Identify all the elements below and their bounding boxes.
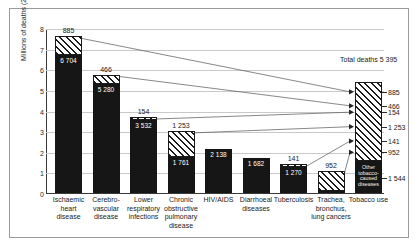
bar-segment-other-diarrhoeal[interactable]: 1 682 <box>243 158 270 193</box>
bar-ischaemic[interactable]: 6 704885Ischaemicheartdisease <box>55 36 82 193</box>
value-label-lower-respiratory-tobacco: 154 <box>122 108 165 115</box>
x-axis-label-line: bronchus, <box>308 205 355 214</box>
gridline-7 <box>46 50 384 51</box>
value-label-trachea-tobacco: 952 <box>310 162 353 169</box>
bar-segment-tobacco-tobacco-use[interactable] <box>355 82 382 161</box>
y-tick-label-4: 4 <box>14 109 44 116</box>
breakdown-tick-0 <box>382 92 387 93</box>
bar-segment-other-hiv-aids[interactable]: 2 138 <box>205 149 232 193</box>
value-label-lower-respiratory-other: 3 532 <box>131 123 156 130</box>
y-tick-label-8: 8 <box>14 26 44 33</box>
value-label-cerebrovascular-other: 5 280 <box>94 87 119 94</box>
bar-hiv-aids[interactable]: 2 138HIV/AIDS <box>205 149 232 193</box>
y-tick-label-7: 7 <box>14 47 44 54</box>
y-tick-label-0: 0 <box>14 191 44 198</box>
breakdown-tick-5 <box>382 152 387 153</box>
breakdown-tick-3 <box>382 127 387 128</box>
breakdown-tick-6 <box>382 178 387 179</box>
gridline-8 <box>46 29 384 30</box>
y-tick-label-6: 6 <box>14 67 44 74</box>
bar-tuberculosis[interactable]: 1 270141Tuberculosis <box>280 164 307 193</box>
bar-segment-other-copd[interactable]: 1 761 <box>168 157 195 193</box>
y-tick-label-5: 5 <box>14 88 44 95</box>
chart-frame: Millions of deaths (2005) 876543210 6 70… <box>9 8 409 238</box>
bar-segment-other-trachea[interactable]: 118 <box>318 191 345 193</box>
bar-tobacco-use[interactable]: Other tobacco-caused diseasesTobacco use <box>355 82 382 193</box>
bar-segment-tobacco-cerebrovascular[interactable] <box>93 75 120 85</box>
value-label-tuberculosis-tobacco: 141 <box>272 155 315 162</box>
x-axis-label-line: pulmonary <box>158 213 205 222</box>
x-axis-label-line: lung cancers <box>308 213 355 222</box>
bar-cerebrovascular[interactable]: 5 280466Cerebro-vasculardisease <box>93 75 120 194</box>
breakdown-tick-4 <box>382 141 387 142</box>
y-tick-label-3: 3 <box>14 129 44 136</box>
value-label-cerebrovascular-tobacco: 466 <box>85 66 128 73</box>
bar-diarrhoeal[interactable]: 1 682Diarrhoealdiseases <box>243 158 270 193</box>
x-axis-label-line: Tobacco use <box>345 196 392 205</box>
y-tick-label-1: 1 <box>14 170 44 177</box>
bar-segment-other-lower-respiratory[interactable]: 3 532 <box>130 120 157 193</box>
other-tobacco-caused-label: Other tobacco-caused diseases <box>357 165 380 187</box>
x-axis-label-line: obstructive <box>158 205 205 214</box>
value-label-copd-other: 1 761 <box>169 160 194 167</box>
bar-segment-tobacco-copd[interactable] <box>168 131 195 157</box>
breakdown-label-3: 1 253 <box>388 124 406 131</box>
bar-segment-other-tuberculosis[interactable]: 1 270 <box>280 167 307 193</box>
total-deaths-note: Total deaths 5 395 <box>340 56 397 63</box>
value-label-hiv-aids-other: 2 138 <box>206 152 231 159</box>
bar-segment-other-tobacco-use[interactable]: Other tobacco-caused diseases <box>355 161 382 193</box>
y-tick-label-2: 2 <box>14 150 44 157</box>
x-axis-label-tobacco-use: Tobacco use <box>345 196 392 205</box>
value-label-ischaemic-other: 6 704 <box>56 58 81 65</box>
plot-area: 876543210 6 704885Ischaemicheartdisease5… <box>46 29 384 194</box>
breakdown-tick-1 <box>382 106 387 107</box>
bar-segment-other-cerebrovascular[interactable]: 5 280 <box>93 84 120 193</box>
value-label-diarrhoeal-other: 1 682 <box>244 161 269 168</box>
bar-segment-other-ischaemic[interactable]: 6 704 <box>55 55 82 193</box>
breakdown-label-5: 952 <box>388 149 400 156</box>
breakdown-label-6: 1 544 <box>388 175 406 182</box>
bar-copd[interactable]: 1 7611 253Chronicobstructivepulmonarydis… <box>168 131 195 193</box>
breakdown-label-0: 885 <box>388 89 400 96</box>
x-axis-label-line: disease <box>158 222 205 231</box>
value-label-copd-tobacco: 1 253 <box>160 122 203 129</box>
breakdown-label-4: 141 <box>388 138 400 145</box>
breakdown-tick-2 <box>382 112 387 113</box>
value-label-tuberculosis-other: 1 270 <box>281 170 306 177</box>
bar-segment-tobacco-ischaemic[interactable] <box>55 36 82 54</box>
bar-segment-tobacco-trachea[interactable] <box>318 171 345 191</box>
x-axis-label-line: diseases <box>233 205 280 214</box>
value-label-ischaemic-tobacco: 885 <box>47 27 90 34</box>
bar-lower-respiratory[interactable]: 3 532154Lowerrespiratoryinfections <box>130 117 157 193</box>
bar-trachea[interactable]: 118952Trachea,bronchus,lung cancers <box>318 171 345 193</box>
breakdown-label-2: 154 <box>388 109 400 116</box>
